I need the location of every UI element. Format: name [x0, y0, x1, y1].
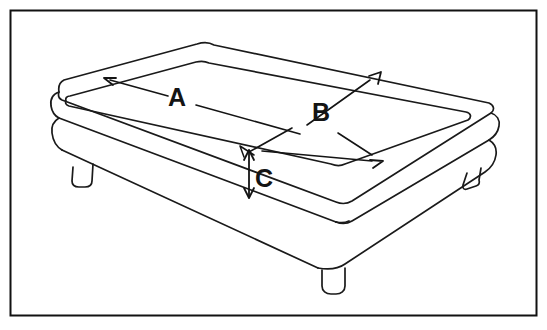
diagram-canvas: A B C — [0, 0, 547, 330]
mattress-measurement-diagram: A B C — [0, 0, 547, 330]
page-background — [0, 0, 547, 330]
dimension-label-a: A — [168, 83, 186, 111]
dimension-label-c: C — [255, 164, 273, 192]
dimension-label-b: B — [312, 98, 330, 126]
